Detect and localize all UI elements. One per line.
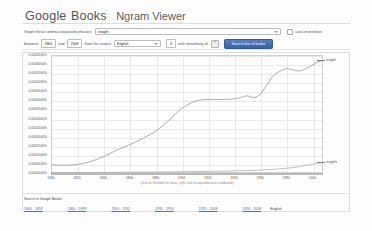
corpus-select[interactable]: English xyxy=(114,40,161,48)
y-tick-label: 0.0000000% xyxy=(28,171,47,175)
case-insensitive-checkbox[interactable]: case-insensitive xyxy=(287,29,322,35)
x-tick-label: 1900 xyxy=(178,176,185,180)
y-tick-label: 0.0003000% xyxy=(28,117,47,121)
plot-lines xyxy=(51,55,323,173)
footer-range-link[interactable]: 1955 - 2008 xyxy=(199,207,218,211)
footer-divider xyxy=(22,193,350,194)
case-insensitive-label: case-insensitive xyxy=(295,30,322,34)
phrase-label: Graph these comma-separated phrases: xyxy=(24,30,92,34)
footer-range-link[interactable]: 1932 - 1954 xyxy=(155,207,174,211)
footer-range-link[interactable]: 1900 - 1931 xyxy=(111,207,130,211)
x-tick-label: 1860 xyxy=(126,176,133,180)
y-tick-label: 0.0004500% xyxy=(28,89,47,93)
x-tick-label: 1920 xyxy=(204,176,211,180)
search-button-label: Search lots of books xyxy=(232,42,266,46)
y-tick-label: 0.0006000% xyxy=(28,62,47,66)
y-tick-label: 0.0000500% xyxy=(28,162,47,166)
x-tick-label: 1800 xyxy=(47,176,54,180)
year-start-input[interactable]: 1800 xyxy=(41,39,56,48)
year-end-input[interactable]: 2008 xyxy=(67,39,82,48)
checkbox-box[interactable] xyxy=(287,29,293,35)
question-mark-icon[interactable]: ? xyxy=(211,40,219,48)
chart-caption: (click on line/label for focus, right-cl… xyxy=(51,181,323,185)
search-button[interactable]: Search lots of books xyxy=(224,39,274,49)
brand-books: Books xyxy=(71,9,107,23)
legend-label-top[interactable]: insight xyxy=(326,58,336,62)
chevron-down-icon[interactable] xyxy=(274,31,278,33)
legend-line-top xyxy=(317,60,325,61)
chevron-down-icon[interactable] xyxy=(154,43,158,45)
year-start-value: 1800 xyxy=(45,42,53,46)
y-tick-label: 0.0004000% xyxy=(28,98,47,102)
footer-title: Search in Google Books: xyxy=(24,197,63,201)
ngram-viewer-page: Google Books Ngram Viewer Graph these co… xyxy=(0,0,372,231)
and-label: and xyxy=(58,42,64,46)
x-tick-label: 1960 xyxy=(257,176,264,180)
options-row: between 1800 and 2008 from the corpus En… xyxy=(24,39,350,48)
y-tick-label: 0.0001500% xyxy=(28,144,47,148)
smoothing-input[interactable]: 3 xyxy=(166,39,176,48)
smoothing-value: 3 xyxy=(170,42,172,46)
footer-corpus-label: English xyxy=(270,207,281,211)
phrase-row: Graph these comma-separated phrases: ins… xyxy=(24,27,350,36)
ngram-chart[interactable]: 0.0006500%0.0006000%0.0005500%0.0005000%… xyxy=(22,52,350,186)
x-tick-label: 2000 xyxy=(309,176,316,180)
brand-google: Google xyxy=(25,9,67,23)
y-tick-label: 0.0002000% xyxy=(28,135,47,139)
phrase-input-value: insight xyxy=(98,30,108,34)
legend-line-bottom xyxy=(317,162,325,163)
x-tick-label: 1880 xyxy=(152,176,159,180)
footer-range-link[interactable]: 1800 - 1859 xyxy=(24,207,43,211)
between-label: between xyxy=(24,42,38,46)
footer-range-link[interactable]: 1860 - 1899 xyxy=(68,207,87,211)
footer-range-links: 1800 - 18591860 - 18991900 - 19311932 - … xyxy=(24,207,350,211)
phrase-input[interactable]: insight xyxy=(95,28,281,36)
x-axis-line xyxy=(51,173,323,175)
year-end-value: 2008 xyxy=(71,42,79,46)
corpus-label: from the corpus xyxy=(85,42,111,46)
series-line[interactable] xyxy=(51,162,323,172)
y-tick-label: 0.0005000% xyxy=(28,80,47,84)
series-line[interactable] xyxy=(51,60,323,165)
corpus-value: English xyxy=(117,42,128,46)
form-divider xyxy=(22,49,350,50)
y-tick-label: 0.0003500% xyxy=(28,107,47,111)
x-tick-label: 1840 xyxy=(100,176,107,180)
header-divider xyxy=(22,23,350,24)
y-tick-label: 0.0002500% xyxy=(28,126,47,130)
x-tick-label: 1980 xyxy=(283,176,290,180)
y-tick-label: 0.0006500% xyxy=(28,53,47,57)
y-tick-label: 0.0005500% xyxy=(28,71,47,75)
footer-range-link[interactable]: 1800 - 2008 xyxy=(242,207,261,211)
y-tick-label: 0.0001000% xyxy=(28,153,47,157)
x-tick-label: 1940 xyxy=(230,176,237,180)
x-tick-label: 1820 xyxy=(73,176,80,180)
app-name: Ngram Viewer xyxy=(116,10,186,22)
legend-label-bottom[interactable]: insights xyxy=(326,160,338,164)
smoothing-label: with smoothing of xyxy=(178,42,208,46)
page-title: Google Books Ngram Viewer xyxy=(25,6,186,24)
